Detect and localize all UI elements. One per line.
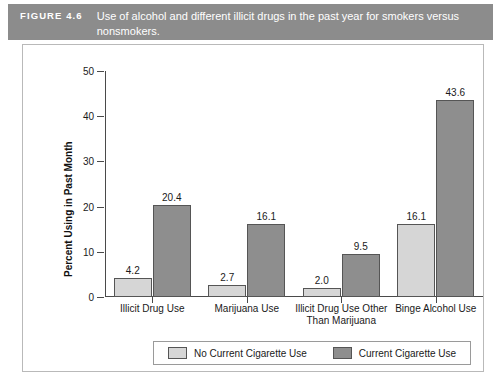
bar-group: 4.220.4Illicit Drug Use	[105, 71, 200, 297]
x-axis-label: Illicit Drug Use Other Than Marijuana	[286, 303, 396, 327]
bar[interactable]: 2.7	[208, 285, 246, 297]
figure-caption: Use of alcohol and different illicit dru…	[97, 9, 482, 38]
figure-container: FIGURE 4.6 Use of alcohol and different …	[0, 0, 501, 390]
bar[interactable]: 4.2	[114, 278, 152, 297]
bar-value-label: 2.7	[220, 272, 234, 283]
bar-value-label: 43.6	[446, 87, 465, 98]
legend-item-current-cigarette-use: Current Cigarette Use	[333, 347, 456, 359]
bar-value-label: 20.4	[162, 192, 181, 203]
bar-value-label: 4.2	[126, 265, 140, 276]
source-note-clipped	[24, 381, 444, 388]
bar-value-label: 16.1	[407, 211, 426, 222]
bar-value-label: 9.5	[354, 241, 368, 252]
bar[interactable]: 20.4	[153, 205, 191, 297]
bar-pair: 2.09.5	[294, 71, 389, 297]
bar[interactable]: 9.5	[342, 254, 380, 297]
figure-banner: FIGURE 4.6 Use of alcohol and different …	[8, 4, 493, 40]
bar-group: 2.09.5Illicit Drug Use Other Than Mariju…	[294, 71, 389, 297]
plot-area: 01020304050 4.220.4Illicit Drug Use2.716…	[105, 71, 483, 297]
bar-pair: 2.716.1	[200, 71, 295, 297]
y-tick-30	[97, 161, 104, 162]
chart-frame: Percent Using in Past Month 01020304050 …	[22, 44, 484, 372]
y-tick-label-20: 20	[83, 201, 94, 212]
legend-item-no-current-cigarette-use: No Current Cigarette Use	[168, 347, 307, 359]
legend-label-light: No Current Cigarette Use	[194, 348, 307, 359]
y-tick-label-10: 10	[83, 246, 94, 257]
x-axis-label: Marijuana Use	[192, 303, 302, 315]
y-tick-0	[97, 297, 104, 298]
legend-label-dark: Current Cigarette Use	[359, 348, 456, 359]
bar-value-label: 2.0	[315, 275, 329, 286]
y-tick-label-50: 50	[83, 66, 94, 77]
bar[interactable]: 16.1	[397, 224, 435, 297]
bar-group: 16.143.6Binge Alcohol Use	[389, 71, 484, 297]
y-tick-label-0: 0	[88, 292, 94, 303]
chart-legend: No Current Cigarette Use Current Cigaret…	[153, 341, 471, 365]
bar[interactable]: 43.6	[436, 100, 474, 297]
y-tick-40	[97, 116, 104, 117]
bar-pair: 4.220.4	[105, 71, 200, 297]
legend-swatch-light	[168, 347, 187, 359]
legend-swatch-dark	[333, 347, 352, 359]
x-axis-label: Binge Alcohol Use	[381, 303, 491, 315]
bar-value-label: 16.1	[257, 211, 276, 222]
bar-groups: 4.220.4Illicit Drug Use2.716.1Marijuana …	[105, 71, 483, 297]
y-tick-10	[97, 252, 104, 253]
y-axis-title: Percent Using in Past Month	[63, 141, 74, 277]
y-tick-label-30: 30	[83, 156, 94, 167]
bar-group: 2.716.1Marijuana Use	[200, 71, 295, 297]
figure-number: FIGURE 4.6	[20, 9, 83, 21]
bar-pair: 16.143.6	[389, 71, 484, 297]
y-tick-label-40: 40	[83, 111, 94, 122]
x-axis-label: Illicit Drug Use	[97, 303, 207, 315]
y-tick-20	[97, 207, 104, 208]
y-tick-50	[97, 71, 104, 72]
bar[interactable]: 2.0	[303, 288, 341, 297]
bar[interactable]: 16.1	[247, 224, 285, 297]
